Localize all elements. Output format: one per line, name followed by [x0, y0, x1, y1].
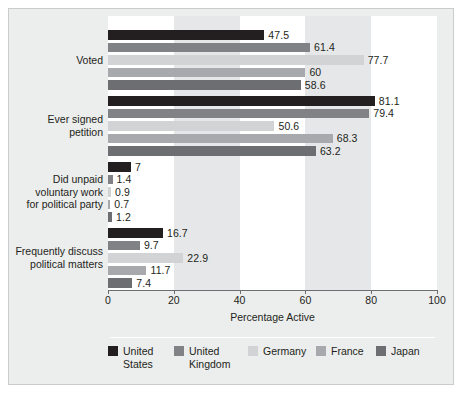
legend-swatch-icon [376, 346, 386, 356]
bar-value-label: 58.6 [301, 79, 326, 91]
legend-label: Japan [391, 345, 420, 358]
legend-label: Germany [263, 345, 306, 358]
bar [108, 121, 274, 131]
bar [108, 43, 310, 53]
bar [108, 241, 140, 251]
bar-value-label: 0.9 [111, 186, 130, 198]
bar-value-label: 60 [305, 66, 321, 78]
bar-value-label: 47.5 [264, 29, 289, 41]
bar-value-label: 9.7 [140, 239, 159, 251]
bar-group: 16.79.722.911.77.4 [108, 228, 437, 288]
bar-value-label: 77.7 [364, 54, 389, 66]
bar-value-label: 63.2 [316, 145, 341, 157]
legend-item[interactable]: Japan [376, 345, 420, 358]
legend-label: France [331, 345, 364, 358]
bar-value-label: 61.4 [310, 41, 335, 53]
x-axis-line [108, 290, 437, 291]
bar [108, 146, 316, 156]
legend-label: United States [123, 345, 153, 370]
bar-row: 63.2 [108, 146, 437, 156]
x-axis-tick-label: 100 [428, 294, 446, 306]
bar-row: 16.7 [108, 228, 437, 238]
bar-row: 22.9 [108, 253, 437, 263]
bar-value-label: 1.2 [112, 211, 131, 223]
legend-item[interactable]: Germany [248, 345, 306, 358]
bar-row: 11.7 [108, 266, 437, 276]
legend-item[interactable]: United States [108, 345, 153, 370]
bar [108, 68, 305, 78]
bar [108, 278, 132, 288]
bar-row: 79.4 [108, 109, 437, 119]
bar-value-label: 0.7 [110, 198, 129, 210]
legend-swatch-icon [174, 346, 184, 356]
bar-row: 7.4 [108, 278, 437, 288]
bar-row: 1.4 [108, 175, 437, 185]
plot-area: 47.561.477.76058.681.179.450.668.363.271… [108, 16, 437, 290]
bar [108, 253, 183, 263]
legend-swatch-icon [316, 346, 326, 356]
bars-layer: 47.561.477.76058.681.179.450.668.363.271… [108, 16, 437, 290]
legend-label: United Kingdom [189, 345, 230, 370]
bar-row: 77.7 [108, 55, 437, 65]
category-label: Did unpaid voluntary work for political … [27, 173, 103, 211]
bar [108, 80, 301, 90]
bar-group: 71.40.90.71.2 [108, 162, 437, 222]
bar [108, 30, 264, 40]
bar [108, 162, 131, 172]
bar [108, 96, 375, 106]
legend-swatch-icon [248, 346, 258, 356]
bar-row: 81.1 [108, 96, 437, 106]
category-label: Frequently discuss political matters [15, 245, 103, 270]
bar-row: 60 [108, 68, 437, 78]
bar-row: 61.4 [108, 43, 437, 53]
bar-row: 50.6 [108, 121, 437, 131]
legend-separator [110, 337, 435, 338]
legend-swatch-icon [108, 346, 118, 356]
bar-row: 68.3 [108, 134, 437, 144]
bar-value-label: 7.4 [132, 277, 151, 289]
bar [108, 134, 333, 144]
category-labels: VotedEver signed petitionDid unpaid volu… [12, 16, 103, 290]
x-axis-tick-label: 60 [300, 294, 312, 306]
bar-group: 81.179.450.668.363.2 [108, 96, 437, 156]
bar-row: 1.2 [108, 212, 437, 222]
bar-value-label: 7 [131, 161, 141, 173]
bar [108, 55, 364, 65]
bar-value-label: 81.1 [375, 95, 400, 107]
bar-row: 58.6 [108, 80, 437, 90]
legend-item[interactable]: France [316, 345, 364, 358]
bar-value-label: 16.7 [163, 227, 188, 239]
bar [108, 109, 369, 119]
category-label: Ever signed petition [48, 113, 103, 138]
x-axis-tick-label: 80 [365, 294, 377, 306]
bar-value-label: 50.6 [274, 120, 299, 132]
bar-row: 7 [108, 162, 437, 172]
bar-value-label: 1.4 [113, 173, 132, 185]
x-axis-tick-label: 0 [105, 294, 111, 306]
bar-row: 0.7 [108, 200, 437, 210]
bar-value-label: 22.9 [183, 252, 208, 264]
x-axis-tick-label: 40 [234, 294, 246, 306]
bar-value-label: 11.7 [146, 264, 170, 276]
chart-legend: United StatesUnited KingdomGermanyFrance… [108, 345, 438, 379]
bar-value-label: 79.4 [369, 107, 394, 119]
x-axis-title: Percentage Active [108, 311, 437, 323]
bar-row: 0.9 [108, 187, 437, 197]
bar-row: 9.7 [108, 241, 437, 251]
legend-item[interactable]: United Kingdom [174, 345, 230, 370]
category-label: Voted [76, 54, 103, 67]
bar [108, 228, 163, 238]
chart-figure: 47.561.477.76058.681.179.450.668.363.271… [0, 0, 464, 395]
bar-row: 47.5 [108, 30, 437, 40]
bar-group: 47.561.477.76058.6 [108, 30, 437, 90]
bar-value-label: 68.3 [333, 132, 358, 144]
bar [108, 266, 146, 276]
x-axis-tick-label: 20 [168, 294, 180, 306]
